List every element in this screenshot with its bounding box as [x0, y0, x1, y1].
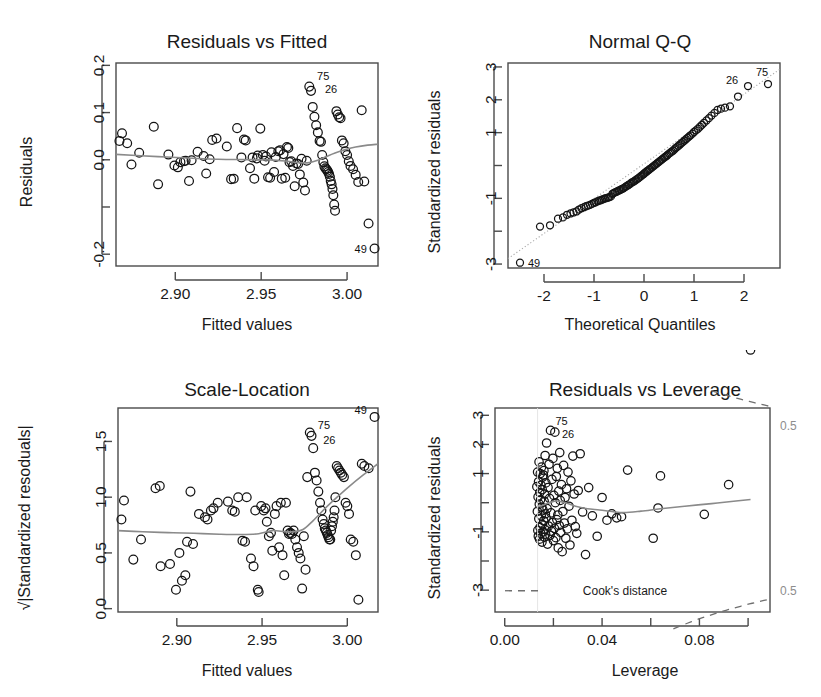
plot-box [495, 408, 770, 612]
data-point [724, 480, 732, 488]
data-point [331, 206, 340, 215]
outlier-label: 75 [318, 419, 330, 431]
y-tick-label: 0.0 [92, 598, 109, 620]
data-point [237, 153, 246, 162]
data-point [307, 431, 316, 440]
data-point [584, 483, 592, 491]
y-tick-label: 1 [482, 128, 499, 137]
data-point [541, 451, 549, 459]
data-point [246, 164, 255, 173]
data-point [746, 350, 754, 354]
data-point [360, 177, 369, 186]
data-point [123, 139, 132, 148]
data-point [290, 182, 299, 191]
outlier-label: 26 [726, 74, 738, 86]
contour-label-upper: 0.5 [780, 419, 797, 433]
y-axis-title: Standardized residuals [426, 437, 443, 600]
data-point [185, 177, 194, 186]
data-point [189, 540, 198, 549]
y-tick-label: 2 [482, 95, 499, 104]
panel-title: Normal Q-Q [589, 31, 691, 52]
x-axis-title: Leverage [612, 662, 679, 679]
data-point [623, 466, 631, 474]
data-point [251, 506, 260, 515]
data-point [233, 124, 242, 133]
axes: 321-1-30.000.040.08 [469, 408, 770, 648]
y-tick-label: 0.0 [90, 149, 107, 171]
panel-title: Residuals vs Leverage [549, 379, 741, 400]
data-point [203, 515, 212, 524]
panel-residuals-vs-fitted: Residuals vs Fitted Fitted values Residu… [0, 0, 410, 350]
data-point [278, 551, 287, 560]
data-point [137, 535, 146, 544]
data-point [202, 169, 211, 178]
data-point [186, 487, 195, 496]
x-tick-label: 1 [690, 287, 699, 304]
data-layer: 492675 [508, 66, 780, 269]
data-point [545, 460, 553, 468]
x-tick-label: -1 [587, 287, 601, 304]
data-point [302, 156, 311, 165]
data-point [129, 555, 138, 564]
data-point [120, 496, 129, 505]
data-point [154, 180, 163, 189]
residuals-vs-fitted-svg: Residuals vs Fitted Fitted values Residu… [0, 0, 410, 350]
diagnostic-plot-figure: Residuals vs Fitted Fitted values Residu… [0, 0, 821, 697]
scale-location-svg: Scale-Location Fitted values √|Standardi… [0, 350, 410, 697]
data-point [294, 549, 303, 558]
y-tick-label: -0.2 [90, 241, 107, 268]
outlier-label: 49 [528, 257, 540, 269]
y-axis-title: √|Standardized resoduals| [16, 425, 33, 610]
data-point [296, 554, 305, 563]
outlier-label: 75 [756, 66, 768, 78]
panel-title: Residuals vs Fitted [167, 31, 328, 52]
data-point [593, 532, 601, 540]
panel-scale-location: Scale-Location Fitted values √|Standardi… [0, 350, 410, 697]
data-point [242, 493, 251, 502]
y-tick-label: 0.5 [92, 542, 109, 564]
data-point [329, 191, 338, 200]
data-point [127, 160, 136, 169]
data-point [298, 584, 307, 593]
data-point [314, 487, 323, 496]
y-axis-title: Residuals [18, 137, 35, 207]
data-point [224, 497, 233, 506]
data-point [567, 477, 575, 485]
data-point [175, 549, 184, 558]
x-tick-label: 0 [640, 287, 649, 304]
panel-normal-qq: Normal Q-Q Theoretical Quantiles Standar… [410, 0, 821, 350]
x-tick-label: 2.95 [247, 631, 277, 648]
x-axis-title: Fitted values [202, 316, 293, 333]
cooks-distance-contour-lower [673, 599, 769, 629]
outlier-label: 26 [325, 83, 337, 95]
outlier-label: 75 [317, 70, 329, 82]
outlier-label: 75 [556, 415, 568, 427]
panel-title: Scale-Location [184, 379, 310, 400]
data-point [617, 513, 625, 521]
y-tick-label: 3 [469, 411, 486, 420]
residuals-vs-leverage-svg: Residuals vs Leverage Leverage Standardi… [410, 350, 821, 697]
outlier-label: 26 [323, 434, 335, 446]
x-tick-label: 2 [740, 287, 749, 304]
data-point [364, 219, 373, 228]
y-axis-title: Standardized residuals [426, 91, 443, 254]
data-point [330, 506, 339, 515]
x-axis-title: Theoretical Quantiles [564, 316, 715, 333]
x-tick-label: 2.90 [160, 285, 191, 302]
data-point [262, 517, 271, 526]
data-point [301, 186, 310, 195]
data-point [598, 493, 606, 501]
data-point [537, 223, 544, 230]
data-point [308, 103, 317, 112]
data-point [166, 560, 175, 569]
y-tick-label: 0.2 [90, 55, 107, 77]
y-tick-label: 2 [469, 440, 486, 449]
outlier-label: 26 [562, 428, 574, 440]
qq-reference-line [508, 69, 780, 258]
panel-residuals-vs-leverage: Residuals vs Leverage Leverage Standardi… [410, 350, 821, 697]
y-tick-label: 1 [469, 469, 486, 478]
data-point [588, 512, 596, 520]
data-point [547, 222, 554, 229]
data-point [193, 147, 202, 156]
smoother-line [116, 144, 378, 163]
